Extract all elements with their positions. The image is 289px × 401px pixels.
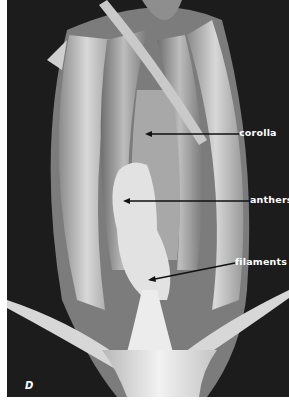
flower-bud-photograph: corolla anthers filaments D	[7, 0, 289, 397]
filaments-label: filaments	[235, 257, 287, 267]
flower-section-illustration	[7, 0, 289, 397]
anthers-label: anthers	[250, 195, 289, 205]
corolla-label: corolla	[239, 128, 277, 138]
panel-letter: D	[25, 380, 33, 391]
